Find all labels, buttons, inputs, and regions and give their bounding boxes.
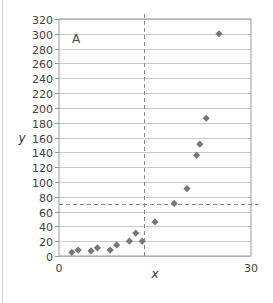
scatter-chart: 0204060801001201401601802002202402602803… — [0, 0, 273, 303]
y-tick-label: 80 — [39, 192, 53, 205]
y-tick-label: 180 — [32, 118, 53, 131]
y-axis-title: y — [17, 131, 26, 145]
y-tick-label: 0 — [46, 251, 53, 264]
diamond-marker — [171, 200, 178, 207]
y-tick-label: 60 — [39, 207, 53, 220]
y-tick-label: 220 — [32, 88, 53, 101]
diamond-marker — [113, 241, 120, 248]
diamond-marker — [215, 30, 222, 37]
y-tick-label: 240 — [32, 73, 53, 86]
diamond-marker — [132, 229, 139, 236]
y-tick-label: 200 — [32, 103, 53, 116]
x-tick-label: 0 — [56, 262, 63, 275]
y-tick-label: 20 — [39, 236, 53, 249]
y-tick-label: 300 — [32, 29, 53, 42]
y-tick-label: 280 — [32, 44, 53, 57]
panel-label: A — [72, 32, 81, 46]
data-points — [68, 30, 222, 256]
x-axis-title: x — [150, 267, 159, 281]
diamond-marker — [183, 185, 190, 192]
y-tick-label: 100 — [32, 177, 53, 190]
y-tick-label: 140 — [32, 147, 53, 160]
x-tick-label: 30 — [244, 262, 258, 275]
y-tick-label: 320 — [32, 14, 53, 27]
reference-lines — [59, 14, 262, 256]
diamond-marker — [196, 141, 203, 148]
diamond-marker — [68, 249, 75, 256]
diamond-marker — [151, 218, 158, 225]
y-tick-label: 40 — [39, 221, 53, 234]
y-axis-ticks: 0204060801001201401601802002202402602803… — [32, 14, 59, 264]
diamond-marker — [75, 246, 82, 253]
y-tick-label: 120 — [32, 162, 53, 175]
y-tick-label: 160 — [32, 133, 53, 146]
diamond-marker — [94, 244, 101, 251]
y-tick-label: 260 — [32, 58, 53, 71]
diamond-marker — [203, 115, 210, 122]
diamond-marker — [107, 246, 114, 253]
diamond-marker — [126, 238, 133, 245]
diamond-marker — [87, 247, 94, 254]
